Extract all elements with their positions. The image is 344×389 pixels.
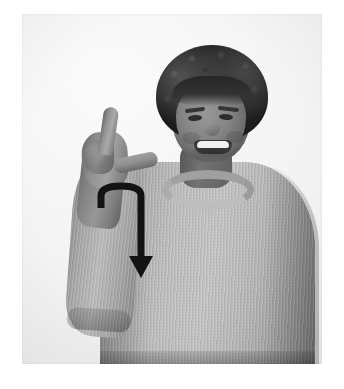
- photograph: [22, 14, 322, 364]
- subject-figure: [22, 14, 322, 364]
- jaw-shadow: [180, 148, 242, 166]
- sleeve-cuff: [66, 307, 131, 333]
- sweater-hem: [100, 351, 315, 364]
- teeth: [197, 141, 229, 148]
- screenshot-root: [0, 0, 344, 389]
- nose: [205, 122, 220, 136]
- subject-bangs: [172, 76, 252, 106]
- sweater-collar: [162, 170, 254, 210]
